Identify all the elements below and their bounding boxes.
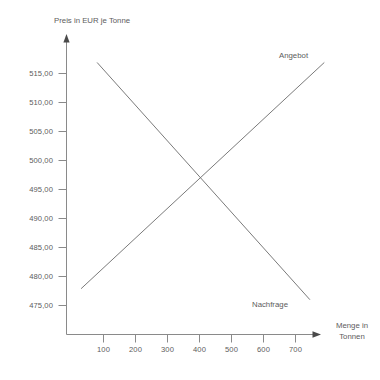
supply-demand-chart: Preis in EUR je Tonne Menge in Tonnen 51… (0, 0, 380, 380)
demand-curve-label: Nachfrage (252, 300, 288, 309)
y-tick-label-500: 500,00 (8, 156, 53, 166)
x-tick-label-600: 600 (249, 345, 278, 355)
y-tick-label-475: 475,00 (8, 301, 53, 311)
x-tick-label-500: 500 (217, 345, 246, 355)
demand-curve-nachfrage (97, 62, 310, 299)
y-axis-ticks (59, 74, 67, 306)
x-axis-ticks (104, 335, 296, 343)
x-tick-label-200: 200 (121, 345, 150, 355)
supply-curve-label: Angebot (279, 51, 308, 60)
supply-curve-angebot (81, 62, 324, 288)
x-axis-arrowhead (313, 331, 322, 337)
y-tick-label-495: 495,00 (8, 185, 53, 195)
x-axis-title-line1: Menge in (326, 321, 378, 332)
x-tick-label-700: 700 (281, 345, 310, 355)
x-axis-title-line2: Tonnen (326, 332, 378, 343)
y-axis-title: Preis in EUR je Tonne (54, 16, 130, 27)
chart-canvas (0, 0, 380, 380)
x-tick-label-400: 400 (185, 345, 214, 355)
y-tick-label-505: 505,00 (8, 127, 53, 137)
y-tick-label-485: 485,00 (8, 243, 53, 253)
y-axis-arrowhead (63, 34, 69, 43)
x-tick-label-100: 100 (89, 345, 118, 355)
y-tick-label-490: 490,00 (8, 214, 53, 224)
y-tick-label-510: 510,00 (8, 98, 53, 108)
y-tick-label-480: 480,00 (8, 272, 53, 282)
x-axis-title: Menge in Tonnen (326, 321, 378, 342)
x-tick-label-300: 300 (153, 345, 182, 355)
y-tick-label-515: 515,00 (8, 69, 53, 79)
